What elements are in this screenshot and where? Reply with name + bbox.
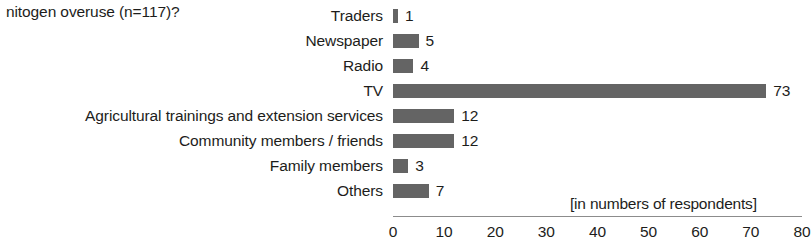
category-label-community-members: Community members / friends — [0, 132, 383, 150]
category-label-radio: Radio — [0, 57, 383, 75]
x-tick-30: 30 — [538, 222, 555, 242]
category-label-traders: Traders — [0, 7, 383, 25]
bar-value-family-members: 3 — [415, 157, 424, 175]
bar-row: Family members 3 — [0, 153, 806, 178]
x-tick-10: 10 — [436, 222, 453, 242]
bar-radio — [393, 59, 413, 73]
bar-row: Newspaper 5 — [0, 28, 806, 53]
bar-wrap-community-members: 12 — [393, 128, 806, 153]
x-tick-70: 70 — [742, 222, 759, 242]
bar-others — [393, 184, 429, 198]
x-tick-0: 0 — [389, 222, 398, 242]
category-label-family-members: Family members — [0, 157, 383, 175]
x-axis-line — [393, 216, 802, 217]
x-tick-20: 20 — [487, 222, 504, 242]
bar-traders — [393, 9, 398, 23]
bar-tv — [393, 84, 766, 98]
bar-value-others: 7 — [436, 182, 445, 200]
bar-rows-container: Traders 1 Newspaper 5 Radio 4 TV — [0, 3, 806, 203]
bar-value-radio: 4 — [420, 57, 429, 75]
bar-newspaper — [393, 34, 419, 48]
bar-value-newspaper: 5 — [426, 32, 435, 50]
bar-row: TV 73 — [0, 78, 806, 103]
bar-wrap-agricultural-trainings: 12 — [393, 103, 806, 128]
category-label-tv: TV — [0, 82, 383, 100]
x-axis-tick-labels: 01020304050607080 — [0, 222, 806, 246]
bar-agricultural-trainings — [393, 109, 454, 123]
x-tick-50: 50 — [640, 222, 657, 242]
x-tick-60: 60 — [691, 222, 708, 242]
bar-row: Traders 1 — [0, 3, 806, 28]
bar-row: Community members / friends 12 — [0, 128, 806, 153]
bar-wrap-family-members: 3 — [393, 153, 806, 178]
category-label-newspaper: Newspaper — [0, 32, 383, 50]
bar-row: Radio 4 — [0, 53, 806, 78]
x-tick-80: 80 — [793, 222, 810, 242]
bar-wrap-newspaper: 5 — [393, 28, 806, 53]
bar-community-members — [393, 134, 454, 148]
bar-value-traders: 1 — [405, 7, 414, 25]
units-annotation: [in numbers of respondents] — [570, 194, 757, 214]
bar-family-members — [393, 159, 408, 173]
bar-wrap-radio: 4 — [393, 53, 806, 78]
bar-value-community-members: 12 — [461, 132, 478, 150]
x-tick-40: 40 — [589, 222, 606, 242]
bar-value-tv: 73 — [773, 82, 790, 100]
bar-wrap-traders: 1 — [393, 3, 806, 28]
category-label-others: Others — [0, 182, 383, 200]
bar-row: Agricultural trainings and extension ser… — [0, 103, 806, 128]
bar-value-agricultural-trainings: 12 — [461, 107, 478, 125]
bar-wrap-tv: 73 — [393, 78, 806, 103]
category-label-agricultural-trainings: Agricultural trainings and extension ser… — [0, 107, 383, 125]
